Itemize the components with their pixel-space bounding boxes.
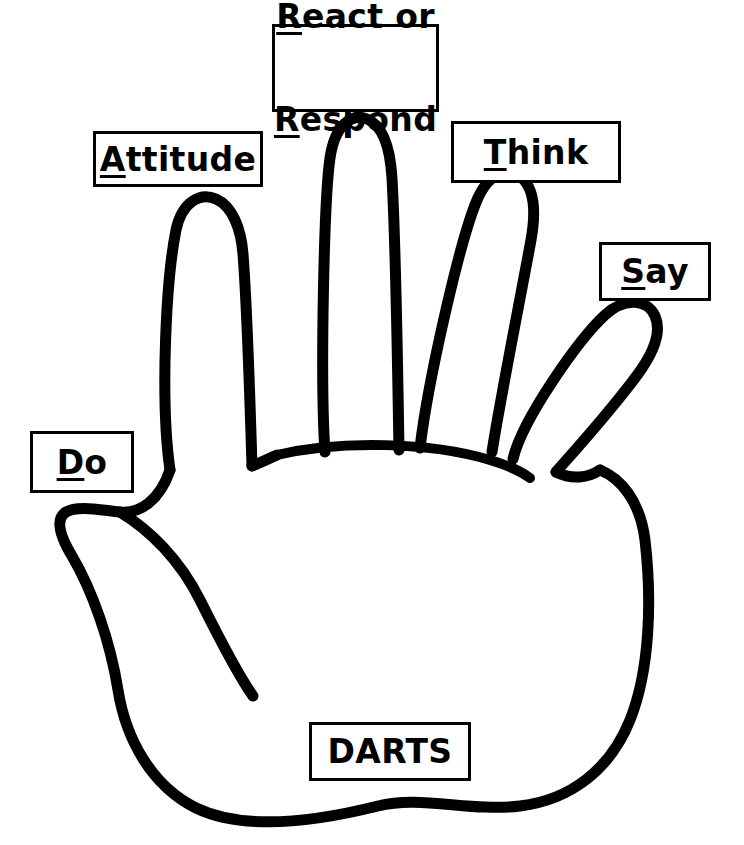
ring-finger-path: [420, 172, 534, 452]
pinky-finger-path: [513, 302, 658, 472]
label-think-initial: T: [484, 133, 507, 172]
thumb-inner-fold-path: [120, 512, 253, 696]
label-attitude[interactable]: Attitude: [93, 131, 263, 187]
label-respond-initial: R: [274, 100, 300, 139]
diagram-canvas: React or Respond Attitude Think Say Do D…: [0, 0, 744, 845]
label-react-or-respond[interactable]: React or Respond: [272, 24, 439, 112]
label-react-rest: eact or: [302, 0, 435, 36]
label-do-initial: D: [57, 443, 85, 482]
label-attitude-initial: A: [100, 140, 126, 179]
label-darts[interactable]: DARTS: [309, 722, 471, 781]
label-think-rest: hink: [507, 133, 589, 172]
label-darts-text: DARTS: [328, 735, 453, 768]
label-do-rest: o: [84, 443, 107, 482]
label-think[interactable]: Think: [451, 121, 621, 183]
label-attitude-rest: ttitude: [126, 140, 256, 179]
label-respond-rest: espond: [300, 100, 437, 139]
label-do[interactable]: Do: [30, 431, 134, 493]
label-say-rest: ay: [645, 252, 688, 291]
index-finger-path: [165, 197, 252, 470]
pinky-base-connector: [556, 470, 600, 477]
label-say[interactable]: Say: [599, 242, 711, 301]
label-say-initial: S: [621, 252, 645, 291]
label-react-initial: R: [276, 0, 302, 36]
